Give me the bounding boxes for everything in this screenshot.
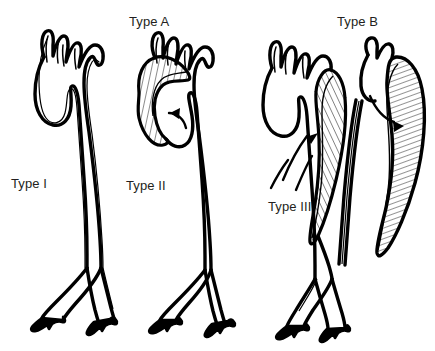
aorta-type-3a-inner-branch-1: [274, 47, 276, 72]
aorta-type-1-femoral-left: [31, 317, 65, 331]
aorta-type-2-femoral-left: [149, 318, 182, 333]
aorta-type-3a-bifurcation-right: [332, 279, 345, 328]
aorta-type-2-bifurcation-right-outer: [205, 270, 217, 324]
aorta-type-3a-inner-branch-3: [303, 57, 304, 78]
aorta-type-3a-femoral-left: [276, 324, 309, 339]
aorta-type-3a-inner-branch-2: [285, 51, 287, 74]
aorta-type-1-dissection-flap: [39, 39, 85, 268]
aorta-type-1-inner-branch-3: [63, 45, 64, 66]
label-type-a: Type A: [129, 14, 169, 29]
aorta-type-1-bifurcation-left: [42, 268, 87, 318]
aorta-type-1-outline-left: [35, 57, 87, 268]
aorta-type-3a-true-lumen-right: [318, 236, 332, 279]
aorta-type-3a-false-lumen: [310, 70, 346, 244]
aorta-type-2-femoral-right: [205, 320, 235, 337]
aorta-type-1-inner-branch-2: [57, 40, 59, 63]
aorta-type-3b-true-lumen-right: [345, 101, 362, 265]
aorta-type-3b-arch-curve: [361, 55, 375, 101]
label-type-1: Type I: [11, 176, 47, 191]
aorta-type-3a: [263, 42, 350, 342]
aorta-type-1-inner-branch-4: [75, 49, 76, 69]
label-type-3: Type III: [268, 199, 311, 214]
aorta-type-3a-bifurcation-left: [287, 279, 315, 326]
aorta-type-3a-arch-left: [263, 68, 315, 279]
label-type-2: Type II: [126, 178, 166, 193]
aorta-type-2-inner-branch-3: [185, 51, 186, 71]
label-type-b: Type B: [337, 14, 378, 29]
aorta-illustration-svg: [0, 0, 435, 351]
aorta-type-1-bifurcation-right-outer: [101, 268, 115, 321]
aorta-type-2-arch-inner: [166, 93, 205, 270]
aorta-type-1-femoral-right: [87, 318, 117, 335]
aortic-dissection-figure: Type A Type B Type I Type II Type III: [0, 0, 435, 351]
aorta-type-3b-arch-stub: [366, 38, 393, 58]
aorta-type-3b: [339, 38, 424, 265]
aorta-type-3a-femoral-right: [320, 325, 350, 342]
aorta-type-3b-false-lumen: [377, 57, 425, 256]
aorta-type-2-entry-arrowhead: [170, 108, 180, 119]
aorta-type-2-false-lumen: [138, 57, 190, 145]
